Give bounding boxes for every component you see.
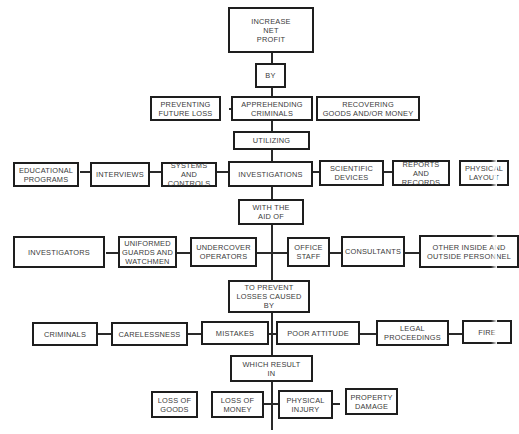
node-property-damage: PROPERTY DAMAGE	[345, 388, 398, 415]
node-scientific-devices: SCIENTIFIC DEVICES	[319, 160, 384, 186]
node-carelessness: CARELESSNESS	[111, 322, 188, 346]
node-loss-of-goods: LOSS OF GOODS	[151, 391, 198, 418]
node-investigations: INVESTIGATIONS	[228, 161, 313, 187]
node-uniformed-guards: UNIFORMED GUARDS AND WATCHMEN	[118, 236, 177, 268]
node-reports-and-records: REPORTS AND RECORDS	[392, 160, 450, 186]
node-consultants: CONSULTANTS	[341, 236, 405, 267]
node-utilizing: UTILIZING	[233, 131, 310, 150]
node-preventing-future-loss: PREVENTING FUTURE LOSS	[150, 96, 221, 121]
node-criminals: CRIMINALS	[32, 322, 98, 346]
node-interviews: INTERVIEWS	[90, 162, 150, 187]
node-poor-attitude: POOR ATTITUDE	[276, 321, 360, 345]
node-educational-programs: EDUCATIONAL PROGRAMS	[13, 162, 79, 187]
node-to-prevent-losses: TO PREVENT LOSSES CAUSED BY	[228, 280, 310, 313]
node-fire: FIRE	[462, 320, 512, 344]
node-loss-of-money: LOSS OF MONEY	[211, 391, 264, 418]
node-with-the-aid-of: WITH THE AID OF	[238, 199, 304, 225]
node-which-result-in: WHICH RESULT IN	[230, 355, 313, 382]
node-mistakes: MISTAKES	[201, 321, 269, 345]
node-investigators: INVESTIGATORS	[13, 236, 105, 268]
node-physical-layout: PHYSICAL LAYOUT	[459, 160, 509, 186]
node-increase-net-profit: INCREASE NET PROFIT	[228, 7, 314, 53]
node-apprehending-criminals: APPREHENDING CRIMINALS	[231, 96, 313, 121]
node-by: BY	[255, 63, 286, 88]
node-office-staff: OFFICE STAFF	[287, 237, 330, 267]
node-physical-injury: PHYSICAL INJURY	[278, 390, 333, 419]
node-systems-and-controls: SYSTEMS AND CONTROLS	[161, 162, 217, 187]
right-edge-fade	[491, 0, 497, 434]
node-other-personnel: OTHER INSIDE AND OUTSIDE PERSONNEL	[419, 235, 519, 268]
node-recovering-goods: RECOVERING GOODS AND/OR MONEY	[316, 96, 420, 121]
node-legal-proceedings: LEGAL PROCEEDINGS	[376, 320, 449, 346]
node-undercover-operators: UNDERCOVER OPERATORS	[190, 237, 257, 267]
